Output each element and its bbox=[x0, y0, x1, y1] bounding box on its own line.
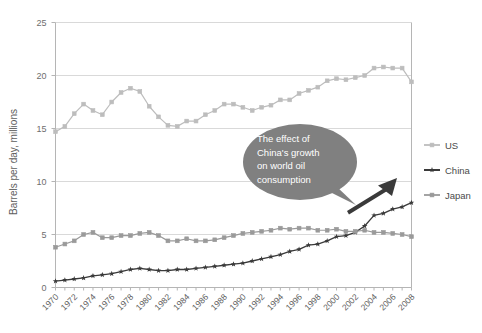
series-point-japan-1974 bbox=[91, 230, 95, 234]
series-point-japan-1992 bbox=[260, 229, 264, 233]
callout-line-1: China's growth bbox=[257, 147, 320, 158]
chart-container: 0510152025 19701972197419761978198019821… bbox=[0, 0, 482, 333]
series-point-us-1997 bbox=[307, 88, 311, 92]
series-point-us-1973 bbox=[82, 102, 86, 106]
series-point-japan-1979 bbox=[138, 232, 142, 236]
series-point-us-1994 bbox=[278, 98, 282, 102]
series-point-us-1977 bbox=[119, 91, 123, 95]
series-point-japan-1970 bbox=[54, 245, 58, 249]
series-point-us-2004 bbox=[372, 66, 376, 70]
series-point-japan-2002 bbox=[353, 229, 357, 233]
series-point-japan-1976 bbox=[110, 236, 114, 240]
series-point-us-1975 bbox=[100, 113, 104, 117]
series-point-japan-2007 bbox=[400, 233, 404, 237]
legend-swatch-marker-us bbox=[430, 143, 434, 147]
series-point-us-1989 bbox=[232, 102, 236, 106]
series-point-japan-1984 bbox=[185, 237, 189, 241]
series-point-japan-1977 bbox=[119, 234, 123, 238]
series-point-us-1983 bbox=[175, 124, 179, 128]
series-point-japan-1987 bbox=[213, 238, 217, 242]
series-point-us-2003 bbox=[363, 74, 367, 78]
series-point-us-2002 bbox=[353, 76, 357, 80]
series-point-us-1993 bbox=[269, 103, 273, 107]
legend-label-japan: Japan bbox=[445, 190, 471, 201]
series-point-japan-2003 bbox=[363, 228, 367, 232]
series-point-japan-1996 bbox=[297, 226, 301, 230]
series-point-us-2000 bbox=[335, 77, 339, 81]
series-point-japan-1997 bbox=[307, 226, 311, 230]
callout-line-0: The effect of bbox=[257, 133, 310, 144]
y-axis-title: Barrels per day, millions bbox=[8, 109, 19, 215]
series-point-japan-2008 bbox=[410, 235, 414, 239]
series-point-us-1974 bbox=[91, 109, 95, 113]
series-point-japan-1989 bbox=[232, 234, 236, 238]
series-point-japan-1983 bbox=[175, 239, 179, 243]
series-point-us-1981 bbox=[157, 115, 161, 119]
series-point-japan-1978 bbox=[129, 234, 133, 238]
legend-swatch-marker-japan bbox=[430, 193, 434, 197]
series-point-japan-2001 bbox=[344, 229, 348, 233]
series-point-japan-1995 bbox=[288, 227, 292, 231]
series-point-us-1988 bbox=[222, 102, 226, 106]
series-point-japan-1991 bbox=[250, 230, 254, 234]
series-point-us-1970 bbox=[54, 130, 58, 134]
series-point-us-1991 bbox=[250, 109, 254, 113]
series-point-japan-1986 bbox=[203, 239, 207, 243]
series-point-us-1999 bbox=[325, 79, 329, 83]
oil-consumption-line-chart: 0510152025 19701972197419761978198019821… bbox=[0, 0, 482, 333]
series-point-us-1979 bbox=[138, 90, 142, 94]
series-point-us-1972 bbox=[72, 112, 76, 116]
series-point-japan-1994 bbox=[278, 226, 282, 230]
series-point-us-1984 bbox=[185, 119, 189, 123]
series-point-us-1978 bbox=[129, 86, 133, 90]
series-point-japan-1982 bbox=[166, 239, 170, 243]
series-point-japan-1981 bbox=[157, 234, 161, 238]
y-tick-label-25: 25 bbox=[36, 18, 46, 28]
series-point-japan-2000 bbox=[335, 227, 339, 231]
series-point-us-1980 bbox=[147, 104, 151, 108]
series-point-japan-2006 bbox=[391, 232, 395, 236]
series-point-us-1985 bbox=[194, 119, 198, 123]
series-point-us-2005 bbox=[381, 65, 385, 69]
series-point-japan-1985 bbox=[194, 239, 198, 243]
callout-line-2: on world oil bbox=[257, 160, 305, 171]
series-point-japan-1972 bbox=[72, 239, 76, 243]
series-point-japan-1973 bbox=[82, 233, 86, 237]
y-tick-label-5: 5 bbox=[41, 230, 46, 240]
series-point-us-2001 bbox=[344, 78, 348, 82]
series-point-japan-1998 bbox=[316, 228, 320, 232]
series-point-us-1971 bbox=[63, 124, 67, 128]
series-point-us-1995 bbox=[288, 98, 292, 102]
series-point-japan-1980 bbox=[147, 230, 151, 234]
series-point-us-1987 bbox=[213, 109, 217, 113]
legend-label-china: China bbox=[445, 165, 471, 176]
series-point-us-1992 bbox=[260, 105, 264, 109]
chart-background bbox=[0, 0, 482, 333]
series-point-japan-1990 bbox=[241, 232, 245, 236]
series-point-us-2008 bbox=[410, 80, 414, 84]
series-point-japan-1971 bbox=[63, 242, 67, 246]
series-point-japan-2004 bbox=[372, 230, 376, 234]
y-tick-label-0: 0 bbox=[41, 283, 46, 293]
series-point-us-1982 bbox=[166, 123, 170, 127]
callout-line-3: consumption bbox=[257, 174, 311, 185]
y-tick-label-15: 15 bbox=[36, 124, 46, 134]
series-point-japan-1993 bbox=[269, 228, 273, 232]
series-point-us-2007 bbox=[400, 66, 404, 70]
series-point-us-2006 bbox=[391, 66, 395, 70]
series-point-us-1976 bbox=[110, 100, 114, 104]
series-point-us-1996 bbox=[297, 92, 301, 96]
series-point-us-1986 bbox=[203, 113, 207, 117]
series-point-japan-1975 bbox=[100, 236, 104, 240]
legend-label-us: US bbox=[445, 140, 458, 151]
series-point-japan-1988 bbox=[222, 236, 226, 240]
series-point-japan-2005 bbox=[381, 230, 385, 234]
series-point-us-1998 bbox=[316, 85, 320, 89]
series-point-japan-1999 bbox=[325, 228, 329, 232]
y-tick-label-10: 10 bbox=[36, 177, 46, 187]
y-tick-label-20: 20 bbox=[36, 71, 46, 81]
series-point-us-1990 bbox=[241, 105, 245, 109]
